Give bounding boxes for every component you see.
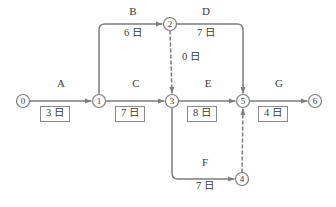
- activity-d-duration: 7 日: [190, 28, 222, 39]
- activity-e-name: E: [192, 78, 224, 89]
- dummy-2-3-duration: 0 日: [175, 52, 207, 63]
- activity-g-name: G: [263, 78, 295, 89]
- node-1[interactable]: 1: [93, 95, 106, 108]
- node-0-label: 0: [21, 96, 26, 106]
- node-4-label: 4: [240, 174, 245, 184]
- activity-a-duration: 3 日: [40, 106, 70, 122]
- node-2[interactable]: 2: [164, 18, 177, 31]
- activity-d-name: D: [190, 6, 222, 17]
- activity-e-duration: 8 日: [187, 106, 217, 122]
- node-0[interactable]: 0: [17, 95, 30, 108]
- network-diagram: 0 1 2 3 4 5 6: [0, 0, 336, 207]
- activity-f-duration: 7 日: [189, 181, 221, 192]
- node-5-label: 5: [241, 96, 246, 106]
- node-5[interactable]: 5: [237, 95, 250, 108]
- node-3-label: 3: [170, 96, 175, 106]
- network-diagram-canvas: 0 1 2 3 4 5 6: [0, 0, 336, 207]
- edge-dummy-2-3: [170, 31, 172, 93]
- node-6-label: 6: [313, 96, 318, 106]
- activity-f-name: F: [189, 157, 221, 168]
- activity-a-name: A: [45, 78, 77, 89]
- activity-b-duration: 6 日: [117, 28, 149, 39]
- activity-b-name: B: [117, 6, 149, 17]
- activity-c-name: C: [120, 78, 152, 89]
- node-3[interactable]: 3: [166, 95, 179, 108]
- node-2-label: 2: [168, 19, 173, 29]
- activity-c-duration: 7 日: [115, 106, 145, 122]
- node-4[interactable]: 4: [236, 173, 249, 186]
- node-6[interactable]: 6: [309, 95, 322, 108]
- edge-dummy-4-5: [242, 109, 243, 172]
- node-1-label: 1: [97, 96, 102, 106]
- activity-g-duration: 4 日: [258, 106, 288, 122]
